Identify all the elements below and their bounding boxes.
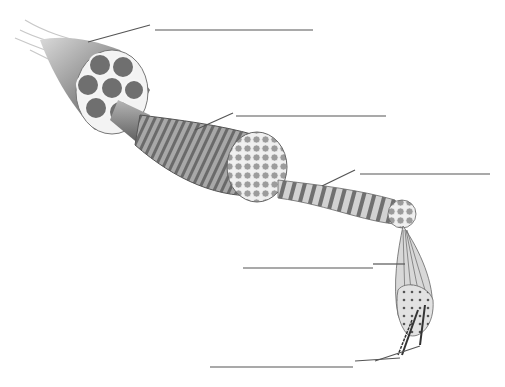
diagram-illustration	[0, 0, 505, 387]
fascicle	[110, 100, 287, 202]
leader-1	[88, 25, 150, 42]
leader-3	[322, 170, 355, 186]
muscle-fiber	[278, 180, 416, 228]
muscle-diagram	[0, 0, 505, 387]
